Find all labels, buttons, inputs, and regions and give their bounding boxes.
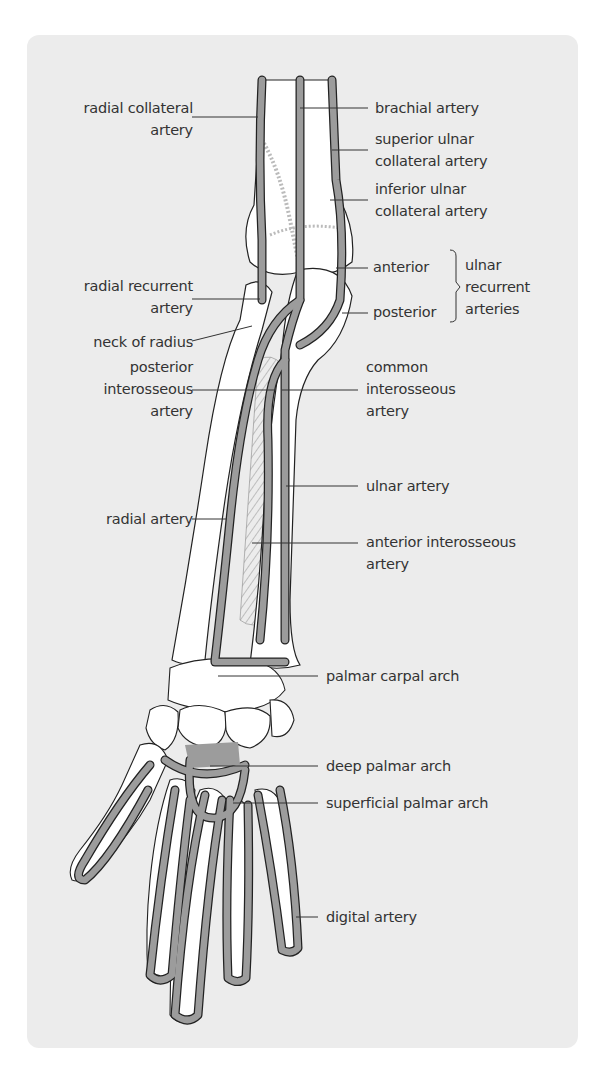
label-line: ulnar artery xyxy=(366,475,449,497)
label-line: common xyxy=(366,356,456,378)
label-line: artery xyxy=(84,119,193,141)
label-line: digital artery xyxy=(326,906,417,928)
label-line: palmar carpal arch xyxy=(326,665,459,687)
label-digital-artery: digital artery xyxy=(326,906,417,928)
label-ulnar-recurrent-arteries: ulnar recurrent arteries xyxy=(465,254,530,320)
label-line: radial recurrent xyxy=(84,275,193,297)
label-line: collateral artery xyxy=(375,150,487,172)
label-line: anterior interosseous xyxy=(366,531,516,553)
label-palmar-carpal-arch: palmar carpal arch xyxy=(326,665,459,687)
label-line: artery xyxy=(103,400,193,422)
label-line: neck of radius xyxy=(93,331,193,353)
label-line: radial artery xyxy=(106,508,193,530)
label-brachial-artery: brachial artery xyxy=(375,97,479,119)
label-line: superficial palmar arch xyxy=(326,792,488,814)
label-line: artery xyxy=(366,400,456,422)
label-line: radial collateral xyxy=(84,97,193,119)
label-posterior: posterior xyxy=(373,301,436,323)
label-line: artery xyxy=(366,553,516,575)
label-ulnar-artery: ulnar artery xyxy=(366,475,449,497)
label-deep-palmar-arch: deep palmar arch xyxy=(326,755,451,777)
label-line: interosseous xyxy=(103,378,193,400)
label-line: posterior xyxy=(103,356,193,378)
label-line: recurrent xyxy=(465,276,530,298)
label-posterior-interosseous-artery: posterior interosseous artery xyxy=(103,356,193,422)
label-inferior-ulnar-collateral-artery: inferior ulnar collateral artery xyxy=(375,178,487,222)
label-line: brachial artery xyxy=(375,97,479,119)
label-anterior: anterior xyxy=(373,256,429,278)
label-line: arteries xyxy=(465,298,530,320)
label-line: superior ulnar xyxy=(375,128,487,150)
label-line: anterior xyxy=(373,256,429,278)
label-superficial-palmar-arch: superficial palmar arch xyxy=(326,792,488,814)
label-line: interosseous xyxy=(366,378,456,400)
label-line: artery xyxy=(84,297,193,319)
label-line: deep palmar arch xyxy=(326,755,451,777)
label-common-interosseous-artery: common interosseous artery xyxy=(366,356,456,422)
carpal-bones xyxy=(146,659,294,750)
label-radial-collateral-artery: radial collateral artery xyxy=(84,97,193,141)
label-line: inferior ulnar xyxy=(375,178,487,200)
label-radial-artery: radial artery xyxy=(106,508,193,530)
label-superior-ulnar-collateral-artery: superior ulnar collateral artery xyxy=(375,128,487,172)
label-neck-of-radius: neck of radius xyxy=(93,331,193,353)
label-line: collateral artery xyxy=(375,200,487,222)
label-line: ulnar xyxy=(465,254,530,276)
label-anterior-interosseous-artery: anterior interosseous artery xyxy=(366,531,516,575)
label-radial-recurrent-artery: radial recurrent artery xyxy=(84,275,193,319)
label-line: posterior xyxy=(373,301,436,323)
